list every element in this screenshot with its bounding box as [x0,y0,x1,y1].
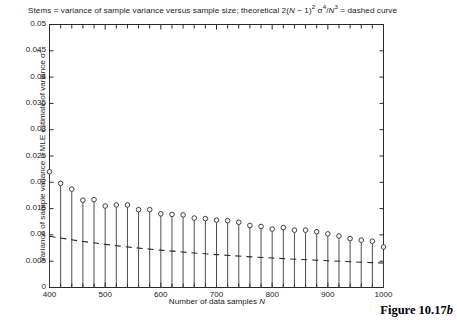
stem-marker [314,229,319,234]
stem-marker [270,227,275,232]
stem-marker [348,236,353,241]
stem-marker [203,216,208,221]
stem-marker [147,207,152,212]
stem-marker [248,223,253,228]
stem-marker [181,213,186,218]
stem-marker [370,239,375,244]
stem-marker [58,181,63,186]
stem-marker [214,218,219,223]
stem-marker [303,228,308,233]
stem-marker [69,187,74,192]
stem-marker [103,204,108,209]
stem-marker [192,216,197,221]
stem-marker [259,224,264,229]
stem-marker [47,169,52,174]
stem-marker [114,203,119,208]
stem-marker [125,203,130,208]
stem-marker [337,234,342,239]
stem-marker [381,245,386,250]
stem-marker [92,197,97,202]
stem-marker [225,218,230,223]
figure-caption-text: Figure 10.17 [380,303,446,317]
figure-caption-italic: b [447,303,453,317]
stem-marker [81,198,86,203]
stem-marker [170,212,175,217]
stem-marker [236,220,241,225]
stem-series [47,169,386,287]
stem-marker [159,212,164,217]
stem-marker [326,232,331,237]
stem-marker [281,225,286,230]
stem-marker [292,228,297,233]
stem-marker [359,238,364,243]
figure-10-17b: Stems = variance of sample variance vers… [0,0,457,322]
figure-caption: Figure 10.17b [380,303,453,318]
plot-area [0,0,457,322]
x-axis-title-symbol: N [259,297,265,306]
x-axis-title-text: Number of data samples [169,297,259,306]
x-axis-title: Number of data samples N [50,297,384,306]
stem-marker [136,207,141,212]
